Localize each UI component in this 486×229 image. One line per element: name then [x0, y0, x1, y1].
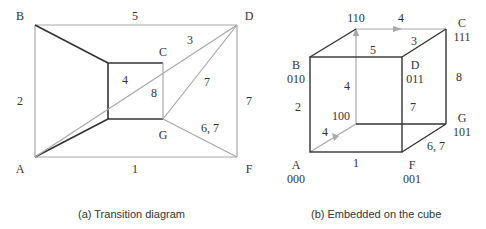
label-bottom-right: 6, 7	[427, 139, 445, 153]
node-F-name: F	[409, 158, 416, 172]
node-B-code: 010	[287, 72, 305, 86]
label-bottom-front: 1	[353, 156, 359, 170]
label-left: 2	[17, 94, 23, 108]
edge-011-111	[402, 29, 446, 57]
node-D-code: 011	[406, 72, 424, 86]
node-G-code: 101	[453, 125, 471, 139]
node-C-name: C	[458, 16, 466, 30]
node-G-name: G	[458, 111, 467, 125]
label-top-back: 4	[398, 11, 404, 25]
edge-A-inner	[35, 119, 108, 157]
label-right-front: 7	[410, 100, 416, 114]
node-D: D	[245, 9, 254, 23]
node-C: C	[159, 45, 167, 59]
node-F-code: 001	[403, 172, 421, 186]
label-AC: 4	[122, 73, 128, 87]
node-A-code: 000	[287, 172, 305, 186]
edge-010-110	[310, 29, 356, 57]
caption-a: (a) Transition diagram	[78, 208, 185, 220]
node-C-code: 111	[453, 30, 470, 44]
label-back-vertical: 4	[344, 79, 350, 93]
label-top: 5	[132, 9, 138, 23]
label-right: 7	[246, 94, 252, 108]
label-CD: 3	[187, 33, 193, 47]
node-100: 100	[332, 109, 350, 123]
cube-diagram: 110 C 111 B 010 D 011 100 G 101 A 000 F …	[287, 11, 471, 186]
figure-canvas: B D A F C G 5 2 1 7 3 7 6, 7 4 8 110	[0, 0, 486, 229]
label-CG: 8	[151, 86, 157, 100]
label-bottom: 1	[132, 162, 138, 176]
label-top-front: 5	[370, 43, 376, 57]
label-GD: 7	[204, 75, 210, 89]
node-G: G	[159, 128, 168, 142]
node-B-name: B	[292, 58, 300, 72]
node-F: F	[246, 162, 253, 176]
edge-GD	[163, 25, 237, 119]
node-A: A	[16, 162, 25, 176]
label-GF: 6, 7	[201, 121, 219, 135]
edge-000-100	[310, 124, 356, 152]
node-A-name: A	[292, 158, 301, 172]
edge-B-inner	[35, 25, 108, 63]
arrow-bottom-diag	[332, 133, 339, 141]
label-right-back: 8	[456, 70, 462, 84]
node-110: 110	[347, 11, 365, 25]
node-D-name: D	[411, 58, 420, 72]
node-B: B	[16, 9, 24, 23]
edge-AD	[35, 25, 237, 157]
caption-b: (b) Embedded on the cube	[311, 208, 441, 220]
label-top-right: 3	[411, 34, 417, 48]
edge-GF	[163, 119, 237, 157]
label-bottom-diag: 4	[322, 125, 328, 139]
transition-diagram: B D A F C G 5 2 1 7 3 7 6, 7 4 8	[16, 9, 254, 176]
arrow-top-back	[393, 26, 402, 32]
label-left-front: 2	[295, 100, 301, 114]
